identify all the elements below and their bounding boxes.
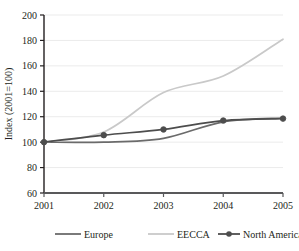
y-axis-tick-label: 140 [22, 86, 37, 97]
y-axis-tick-label: 200 [22, 10, 37, 21]
y-axis-tick-label: 80 [27, 162, 37, 173]
x-axis-tick-label: 2003 [154, 200, 174, 211]
y-axis-tick-label: 160 [22, 60, 37, 71]
legend-item-eecca[interactable]: EECCA [148, 229, 211, 240]
y-axis-tick-label: 60 [27, 188, 37, 199]
data-point-marker [220, 118, 226, 124]
legend-label: North America [243, 229, 299, 240]
legend-label: Europe [84, 229, 113, 240]
legend-item-north-america[interactable]: North America [218, 229, 299, 240]
grid-lines [44, 15, 283, 168]
line-chart: 6080100120140160180200Index (2001=100)20… [0, 0, 299, 251]
series-group [41, 39, 286, 145]
legend-label: EECCA [177, 229, 211, 240]
y-axis: 6080100120140160180200 [22, 10, 44, 199]
x-axis-tick-label: 2004 [213, 200, 233, 211]
data-point-marker [41, 139, 47, 145]
y-axis-tick-label: 100 [22, 137, 37, 148]
legend-item-europe[interactable]: Europe [55, 229, 113, 240]
data-point-marker [161, 127, 167, 133]
x-axis-tick-label: 2001 [34, 200, 54, 211]
legend-swatch-marker [226, 231, 232, 237]
data-point-marker [280, 116, 286, 122]
chart-legend: EuropeEECCANorth America [55, 229, 299, 240]
chart-canvas: 6080100120140160180200Index (2001=100)20… [0, 0, 299, 251]
x-axis: 20012002200320042005 [34, 193, 293, 211]
data-point-marker [101, 132, 107, 138]
y-axis-title: Index (2001=100) [3, 68, 15, 141]
series-north-america [41, 116, 286, 145]
y-axis-tick-label: 120 [22, 111, 37, 122]
y-axis-tick-label: 180 [22, 35, 37, 46]
x-axis-tick-label: 2005 [273, 200, 293, 211]
x-axis-tick-label: 2002 [94, 200, 114, 211]
